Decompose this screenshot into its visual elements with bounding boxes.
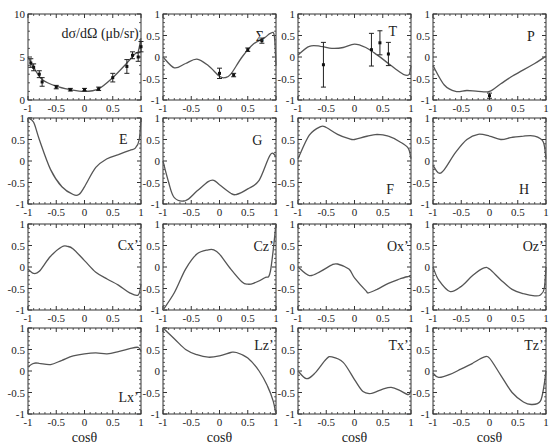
observable-label: dσ/dΩ (μb/sr): [62, 26, 140, 42]
x-tick-label: 0.5: [106, 416, 120, 428]
observable-label: Oz’: [523, 239, 544, 254]
y-tick-label: 0: [20, 94, 26, 106]
x-tick-label: 1: [273, 206, 279, 218]
x-tick-label: 0: [487, 206, 493, 218]
x-tick-label: 0: [217, 416, 223, 428]
y-tick-label: -1: [286, 94, 295, 106]
y-tick-label: 0.5: [146, 30, 160, 42]
x-tick-label: 0.5: [511, 206, 525, 218]
y-tick-label: 0: [155, 155, 161, 167]
data-point: [38, 73, 41, 76]
y-tick-label: -1: [16, 408, 25, 420]
panel-Tx: -1-0.500.51-1-0.500.51Tx’cosθ: [278, 322, 414, 445]
y-tick-label: -0.5: [8, 283, 26, 295]
observable-label: P: [527, 29, 535, 44]
x-tick-label: 1: [138, 102, 144, 114]
x-tick-label: -0.5: [48, 102, 66, 114]
y-tick-label: 0.5: [11, 344, 25, 356]
y-tick-label: 0.5: [281, 240, 295, 252]
observable-label: Tz’: [524, 338, 543, 353]
y-tick-label: -1: [151, 304, 160, 316]
y-tick-label: 1: [155, 8, 161, 20]
plot-frame: [163, 118, 276, 204]
x-tick-label: 0: [217, 312, 223, 324]
panel-P: -1-0.500.51-1-0.500.51P: [413, 8, 549, 114]
observable-label: H: [519, 182, 529, 197]
x-tick-label: 0: [352, 206, 358, 218]
y-tick-label: -0.5: [143, 387, 161, 399]
y-tick-label: 0: [290, 51, 296, 63]
x-tick-label: 1: [273, 312, 279, 324]
observable-label: Cx’: [118, 238, 139, 253]
y-tick-label: -0.5: [143, 177, 161, 189]
x-tick-label: -0.5: [183, 102, 201, 114]
panel-Cx: -1-0.500.51-1-0.500.51Cx’: [8, 218, 144, 324]
model-curve: [28, 38, 141, 91]
x-tick-label: 0: [487, 312, 493, 324]
model-curve: [298, 44, 411, 75]
x-tick-label: 1: [543, 102, 549, 114]
data-point: [83, 88, 86, 91]
y-tick-label: 1: [155, 218, 161, 230]
x-tick-label: 0: [487, 102, 493, 114]
y-tick-label: 1: [155, 322, 161, 334]
y-tick-label: 0: [425, 365, 431, 377]
panel-Lx: -1-0.500.51-1-0.500.51Lx’cosθ: [8, 322, 144, 445]
observable-label: G: [252, 133, 262, 148]
x-tick-label: -0.5: [453, 312, 471, 324]
x-tick-label: 1: [273, 102, 279, 114]
x-tick-label: 0.5: [241, 102, 255, 114]
observable-label: Cz’: [254, 239, 274, 254]
x-tick-label: -0.5: [453, 102, 471, 114]
data-point: [246, 48, 249, 51]
y-tick-label: -0.5: [278, 73, 296, 85]
data-point: [131, 54, 134, 57]
x-tick-label: -0.5: [318, 416, 336, 428]
panel-Ox: -1-0.500.51-1-0.500.51Ox’: [278, 218, 414, 324]
x-tick-label: 1: [543, 416, 549, 428]
x-tick-label: 0.5: [511, 312, 525, 324]
y-tick-label: -0.5: [278, 283, 296, 295]
y-tick-label: -0.5: [413, 387, 431, 399]
observable-label: E: [119, 132, 128, 147]
data-point: [41, 80, 44, 83]
x-tick-label: -0.5: [318, 312, 336, 324]
y-tick-label: 0: [290, 155, 296, 167]
x-tick-label: 0.5: [106, 102, 120, 114]
observable-label: T: [388, 24, 397, 39]
x-tick-label: 1: [408, 206, 414, 218]
y-tick-label: 0: [290, 261, 296, 273]
data-point: [137, 56, 140, 59]
x-tick-label: 1: [408, 416, 414, 428]
x-tick-label: 0.5: [376, 312, 390, 324]
x-tick-label: 0: [352, 102, 358, 114]
y-tick-label: 0.5: [416, 30, 430, 42]
data-point: [232, 74, 235, 77]
y-tick-label: 0.5: [146, 134, 160, 146]
y-tick-label: -1: [16, 198, 25, 210]
model-curve: [28, 347, 141, 366]
x-tick-label: 1: [543, 312, 549, 324]
y-tick-label: -1: [421, 94, 430, 106]
y-tick-label: -1: [421, 304, 430, 316]
y-tick-label: 0.5: [416, 240, 430, 252]
model-curve: [433, 134, 546, 173]
model-curve: [28, 246, 141, 296]
observable-label: Lx’: [119, 390, 139, 405]
y-tick-label: -1: [286, 198, 295, 210]
y-tick-label: -0.5: [143, 283, 161, 295]
x-tick-label: 0: [217, 206, 223, 218]
panel-Oz: -1-0.500.51-1-0.500.51Oz’: [413, 218, 549, 324]
x-tick-label: -0.5: [453, 206, 471, 218]
x-tick-label: 1: [408, 102, 414, 114]
x-tick-label: 1: [543, 206, 549, 218]
x-tick-label: 1: [138, 206, 144, 218]
x-tick-label: 0.5: [376, 102, 390, 114]
model-curve: [28, 118, 141, 195]
y-tick-label: 1: [20, 218, 26, 230]
y-tick-label: 0.5: [416, 134, 430, 146]
y-tick-label: 1: [290, 112, 296, 124]
x-tick-label: 0.5: [241, 206, 255, 218]
x-tick-label: 1: [273, 416, 279, 428]
y-tick-label: 0.5: [11, 134, 25, 146]
